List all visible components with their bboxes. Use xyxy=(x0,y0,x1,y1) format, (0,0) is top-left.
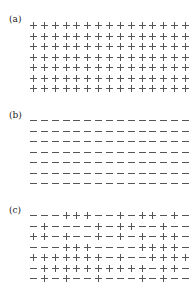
plus-spin xyxy=(148,73,157,83)
minus-spin xyxy=(116,242,125,252)
minus-spin xyxy=(83,178,92,188)
minus-spin xyxy=(51,168,60,178)
minus-spin xyxy=(83,136,92,146)
plus-spin xyxy=(72,242,81,252)
minus-spin xyxy=(72,136,81,146)
plus-spin xyxy=(40,83,49,93)
minus-spin xyxy=(62,221,71,231)
minus-spin xyxy=(138,252,147,262)
plus-spin xyxy=(94,273,103,283)
minus-spin xyxy=(83,231,92,241)
plus-spin xyxy=(105,263,114,273)
plus-spin xyxy=(170,73,179,83)
plus-spin xyxy=(72,41,81,51)
minus-spin xyxy=(148,178,157,188)
plus-spin xyxy=(170,52,179,62)
plus-spin xyxy=(127,83,136,93)
minus-spin xyxy=(72,221,81,231)
panel-c: (c) xyxy=(0,205,194,285)
plus-spin xyxy=(72,210,81,220)
minus-spin xyxy=(138,221,147,231)
plus-spin xyxy=(159,252,168,262)
minus-spin xyxy=(148,136,157,146)
minus-spin xyxy=(62,147,71,157)
plus-spin xyxy=(116,41,125,51)
plus-spin xyxy=(181,252,190,262)
minus-spin xyxy=(181,147,190,157)
minus-spin xyxy=(105,273,114,283)
plus-spin xyxy=(83,210,92,220)
plus-spin xyxy=(40,231,49,241)
minus-spin xyxy=(83,147,92,157)
plus-spin xyxy=(29,20,38,30)
minus-spin xyxy=(116,136,125,146)
minus-spin xyxy=(72,178,81,188)
minus-spin xyxy=(29,178,38,188)
panel-a: (a) xyxy=(0,14,194,94)
plus-spin xyxy=(159,31,168,41)
plus-spin xyxy=(170,83,179,93)
plus-spin xyxy=(83,242,92,252)
minus-spin xyxy=(94,115,103,125)
plus-spin xyxy=(40,31,49,41)
plus-spin xyxy=(29,52,38,62)
plus-spin xyxy=(138,210,147,220)
plus-spin xyxy=(83,52,92,62)
minus-spin xyxy=(105,157,114,167)
plus-spin xyxy=(29,231,38,241)
plus-spin xyxy=(170,62,179,72)
plus-spin xyxy=(72,263,81,273)
plus-spin xyxy=(159,231,168,241)
minus-spin xyxy=(138,147,147,157)
minus-spin xyxy=(105,126,114,136)
plus-spin xyxy=(40,41,49,51)
plus-spin xyxy=(148,83,157,93)
minus-spin xyxy=(94,242,103,252)
minus-spin xyxy=(148,168,157,178)
plus-spin xyxy=(116,252,125,262)
plus-spin xyxy=(116,20,125,30)
plus-spin xyxy=(40,73,49,83)
plus-spin xyxy=(116,73,125,83)
plus-spin xyxy=(72,73,81,83)
plus-spin xyxy=(181,83,190,93)
plus-spin xyxy=(138,20,147,30)
plus-spin xyxy=(181,73,190,83)
minus-spin xyxy=(51,231,60,241)
minus-spin xyxy=(51,242,60,252)
plus-spin xyxy=(138,52,147,62)
minus-spin xyxy=(127,147,136,157)
minus-spin xyxy=(105,136,114,146)
plus-spin xyxy=(72,52,81,62)
plus-spin xyxy=(105,20,114,30)
minus-spin xyxy=(116,147,125,157)
panel-label-c: (c) xyxy=(9,205,21,215)
plus-spin xyxy=(62,20,71,30)
minus-spin xyxy=(83,273,92,283)
plus-spin xyxy=(170,41,179,51)
minus-spin xyxy=(62,168,71,178)
minus-spin xyxy=(148,221,157,231)
minus-spin xyxy=(105,115,114,125)
minus-spin xyxy=(127,136,136,146)
minus-spin xyxy=(127,178,136,188)
plus-spin xyxy=(62,242,71,252)
minus-spin xyxy=(105,178,114,188)
minus-spin xyxy=(181,157,190,167)
minus-spin xyxy=(127,157,136,167)
minus-spin xyxy=(94,178,103,188)
minus-spin xyxy=(170,115,179,125)
plus-spin xyxy=(127,41,136,51)
plus-spin xyxy=(138,231,147,241)
minus-spin xyxy=(170,178,179,188)
minus-spin xyxy=(40,157,49,167)
plus-spin xyxy=(159,20,168,30)
minus-spin xyxy=(83,126,92,136)
minus-spin xyxy=(62,126,71,136)
plus-spin xyxy=(29,62,38,72)
minus-spin xyxy=(148,147,157,157)
plus-spin xyxy=(138,263,147,273)
minus-spin xyxy=(40,136,49,146)
minus-spin xyxy=(127,252,136,262)
minus-spin xyxy=(40,147,49,157)
